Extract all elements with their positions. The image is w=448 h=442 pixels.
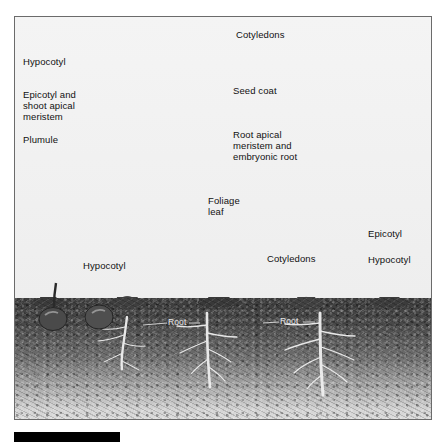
label-seed-coat: Seed coat [233,85,277,96]
label-hypocotyl-left: Hypocotyl [83,260,126,271]
label-epicotyl-shoot-apical-meristem: Epicotyl and shoot apical meristem [23,89,76,122]
figure-canvas: Hypocotyl Epicotyl and shoot apical meri… [0,0,448,442]
label-root-right: Root [280,316,298,327]
label-root-apical-meristem: Root apical meristem and embryonic root [233,129,297,162]
label-hypocotyl-seed: Hypocotyl [23,56,66,67]
label-root-left: Root [168,317,186,328]
label-epicotyl-right: Epicotyl [368,228,402,239]
figure-frame: Hypocotyl Epicotyl and shoot apical meri… [14,16,432,420]
label-plumule: Plumule [23,134,58,145]
label-hypocotyl-right: Hypocotyl [368,254,411,265]
label-cotyledons-seed: Cotyledons [236,29,285,40]
label-foliage-leaf: Foliage leaf [208,195,240,217]
root-overlay [15,17,431,420]
label-cotyledons-middle: Cotyledons [267,253,316,264]
caption-bar-fragment [14,432,120,442]
